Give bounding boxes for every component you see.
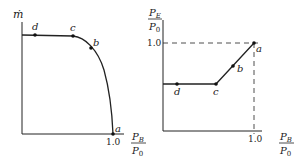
- label-a: a: [115, 123, 121, 134]
- svg-text:PB: PB: [279, 131, 292, 144]
- label-b: b: [93, 37, 99, 48]
- right-x-label: PB P0: [279, 131, 294, 158]
- right-x-tick-1: 1.0: [248, 134, 263, 144]
- label-b: b: [237, 63, 243, 74]
- label-d: d: [174, 86, 180, 97]
- left-y-label: ṁ: [13, 8, 23, 21]
- svg-text:P0: P0: [148, 21, 160, 34]
- label-c: c: [70, 22, 76, 33]
- point-b: [231, 64, 235, 68]
- left-x-tick-1: 1.0: [106, 137, 121, 147]
- diagram-canvas: ṁ d c b a 1.0 PB P0 PE P0 1.0 d c b a 1.: [0, 0, 301, 161]
- right-plot: PE P0 1.0 d c b a 1.0 PB P0: [147, 7, 294, 158]
- mass-flow-curve: [22, 35, 113, 134]
- right-y-label: PE P0: [148, 7, 162, 34]
- label-d: d: [32, 21, 38, 32]
- svg-text:PB: PB: [131, 131, 144, 144]
- label-a: a: [256, 43, 262, 54]
- svg-text:PE: PE: [148, 7, 161, 20]
- label-c: c: [213, 86, 219, 97]
- svg-text:P0: P0: [131, 145, 143, 158]
- point-d: [33, 33, 37, 37]
- right-y-tick-1: 1.0: [147, 38, 162, 48]
- left-plot: ṁ d c b a 1.0 PB P0: [13, 8, 146, 158]
- svg-text:P0: P0: [279, 145, 291, 158]
- point-c: [71, 34, 75, 38]
- left-x-label: PB P0: [131, 131, 146, 158]
